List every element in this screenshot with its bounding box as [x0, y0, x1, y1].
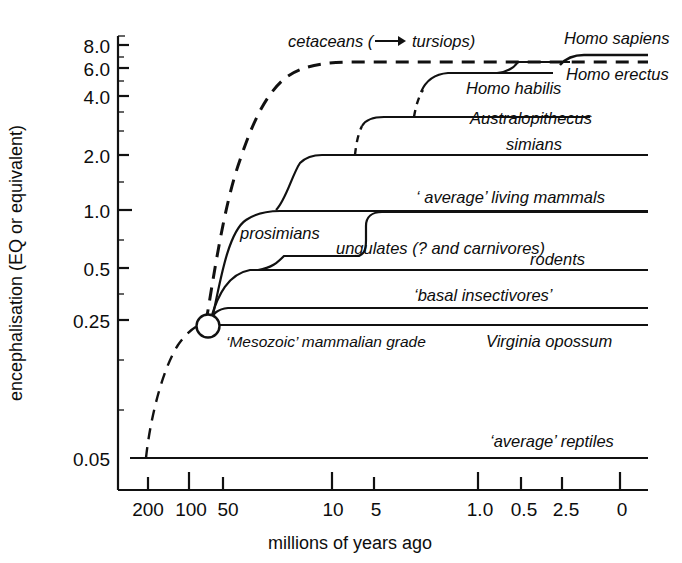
label-homo-habilis: Homo habilis	[466, 79, 561, 97]
y-tick-label-8.0: 8.0	[84, 36, 110, 57]
label-basal-insectivores: ‘basal insectivores’	[414, 286, 553, 304]
cetaceans-arrow-icon	[375, 36, 406, 46]
chart-canvas: 8.0 6.0 4.0 2.0 1.0 0.5 0.25 0.05 200 10…	[0, 0, 682, 563]
x-axis-ticks	[148, 472, 620, 490]
label-average-living-mammals: ‘ average’ living mammals	[416, 188, 605, 206]
curve-homo-erectus	[497, 62, 570, 73]
y-tick-label-0.25: 0.25	[73, 311, 110, 332]
curve-basal-insectivores	[209, 308, 648, 322]
x-tick-label-1.0: 1.0	[467, 499, 493, 520]
label-mesozoic-grade: ‘Mesozoic’ mammalian grade	[226, 333, 426, 350]
y-tick-label-0.05: 0.05	[73, 449, 110, 470]
x-tick-label-100: 100	[175, 499, 207, 520]
x-tick-labels: 200 100 50 10 5 1.0 0.5 2.5 0	[132, 499, 627, 520]
label-average-reptiles: ‘average’ reptiles	[490, 432, 614, 450]
x-tick-label-0: 0	[617, 499, 628, 520]
curve-reptile-to-mammal-ascent	[146, 325, 200, 458]
x-tick-label-200: 200	[132, 499, 164, 520]
x-tick-label-5: 5	[371, 499, 382, 520]
riser-australopithecus-to-habilis	[414, 90, 423, 117]
y-tick-label-1.0: 1.0	[84, 201, 110, 222]
label-cetaceans: cetaceans (	[288, 32, 375, 50]
x-axis-title: millions of years ago	[268, 533, 432, 553]
label-simians: simians	[506, 135, 562, 153]
label-homo-sapiens: Homo sapiens	[564, 29, 669, 47]
riser-simians-to-australopithecus	[355, 126, 362, 155]
encephalisation-chart: 8.0 6.0 4.0 2.0 1.0 0.5 0.25 0.05 200 10…	[0, 0, 682, 563]
y-tick-label-4.0: 4.0	[84, 87, 110, 108]
x-tick-label-2.5: 2.5	[553, 499, 579, 520]
y-tick-labels: 8.0 6.0 4.0 2.0 1.0 0.5 0.25 0.05	[73, 36, 110, 470]
y-tick-label-0.5: 0.5	[84, 259, 110, 280]
x-tick-label-0.5: 0.5	[511, 499, 537, 520]
mesozoic-junction-node	[197, 315, 220, 338]
label-prosimians: prosimians	[239, 224, 320, 242]
label-virginia-opossum: Virginia opossum	[486, 332, 612, 350]
label-cetaceans-tursiops: tursiops)	[412, 32, 475, 50]
y-axis-title: encephalisation (EQ or equivalent)	[6, 125, 26, 401]
label-homo-erectus: Homo erectus	[566, 65, 669, 83]
label-ungulates-carnivores: ungulates (? and carnivores)	[336, 239, 545, 257]
y-tick-label-6.0: 6.0	[84, 59, 110, 80]
label-australopithecus: Australopithecus	[469, 109, 592, 127]
label-rodents: rodents	[530, 250, 585, 268]
x-tick-label-50: 50	[217, 499, 238, 520]
y-tick-label-2.0: 2.0	[84, 146, 110, 167]
x-tick-label-10: 10	[322, 499, 343, 520]
